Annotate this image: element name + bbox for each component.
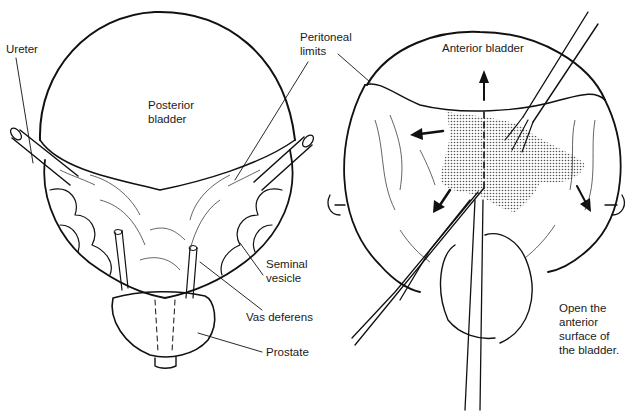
label-prostate: Prostate [266, 345, 309, 359]
label-anterior-bladder: Anterior bladder [442, 41, 524, 55]
label-seminal-vesicle: Seminal vesicle [266, 257, 308, 285]
caption-open-anterior-surface: Open the anterior surface of the bladder… [559, 301, 619, 357]
anatomical-illustration: Ureter Posterior bladder Peritoneal limi… [0, 0, 635, 418]
label-posterior-bladder: Posterior bladder [148, 98, 194, 126]
illustration-drawing [0, 0, 635, 418]
label-vas-deferens: Vas deferens [246, 310, 313, 324]
label-peritoneal-limits: Peritoneal limits [300, 30, 352, 58]
label-ureter: Ureter [6, 42, 38, 56]
